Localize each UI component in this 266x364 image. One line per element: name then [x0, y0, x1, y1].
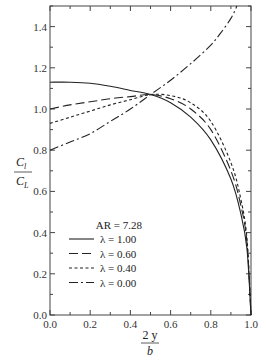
plot-frame: [50, 6, 251, 315]
legend-entry-label: λ = 1.00: [100, 233, 137, 245]
series-line-solid: [50, 82, 251, 315]
legend-title: AR = 7.28: [96, 219, 143, 231]
y-axis-label: C l C L: [14, 155, 32, 190]
y-tick-label: 1.4: [33, 21, 47, 33]
plot-border: [50, 6, 251, 315]
series-lines: [50, 6, 251, 315]
x-label-numerator: 2 y: [143, 328, 158, 342]
y-tick-label: 1.2: [33, 62, 47, 74]
x-label-denominator: b: [147, 344, 153, 358]
y-tick-label: 0.0: [33, 309, 47, 321]
y-tick-label: 1.0: [33, 103, 47, 115]
x-tick-label: 0.2: [83, 318, 97, 330]
legend-entry-label: λ = 0.00: [100, 277, 137, 289]
y-tick-label: 0.8: [33, 144, 47, 156]
legend-entry-label: λ = 0.60: [100, 248, 137, 260]
x-tick-label: 0.4: [124, 318, 138, 330]
y-tick-label: 0.2: [33, 268, 47, 280]
series-line-short-dashed: [50, 94, 251, 315]
spanwise-lift-chart: 0.00.20.40.60.81.0 0.00.20.40.60.81.01.2…: [0, 0, 266, 364]
y-label-num-subscript: l: [24, 162, 27, 171]
x-tick-label: 1.0: [244, 318, 258, 330]
y-axis-ticks: 0.00.20.40.60.81.01.21.4: [33, 6, 251, 321]
x-axis-label: 2 y b: [141, 328, 159, 358]
series-line-dash-dot: [50, 6, 237, 150]
legend: AR = 7.28λ = 1.00λ = 0.60λ = 0.40λ = 0.0…: [69, 219, 143, 289]
series-line-dashed: [50, 95, 251, 315]
y-tick-label: 0.4: [33, 227, 47, 239]
x-tick-label: 0.6: [164, 318, 178, 330]
x-tick-label: 0.8: [204, 318, 218, 330]
y-label-den-subscript: L: [23, 181, 29, 190]
legend-entry-label: λ = 0.40: [100, 262, 137, 274]
y-tick-label: 0.6: [33, 185, 47, 197]
